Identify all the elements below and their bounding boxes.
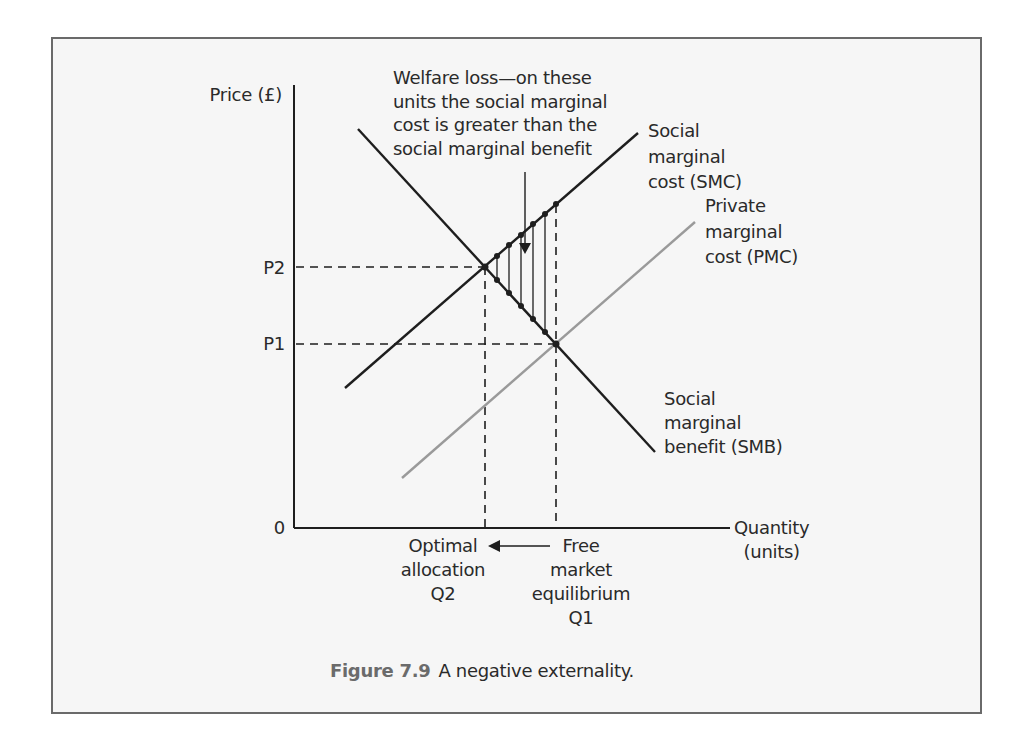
pmc-label-line: cost (PMC) [705, 244, 798, 270]
optimal-label-line: Optimal [398, 534, 488, 558]
pmc-line [402, 222, 695, 478]
welfare-loss-line: units the social marginal [393, 90, 607, 114]
pmc-label: Private marginal cost (PMC) [705, 193, 798, 270]
smb-label-line: Social [664, 387, 783, 411]
origin-label: 0 [240, 516, 285, 540]
welfare-loss-hatch [497, 214, 545, 332]
smc-label-line: Social [648, 118, 742, 144]
welfare-loss-line: Welfare loss—on these [393, 66, 607, 90]
y-axis-label-text: Price (£) [190, 83, 282, 107]
smc-line [345, 133, 638, 388]
free-market-label-line: Q1 [526, 606, 636, 630]
smc-label: Social marginal cost (SMC) [648, 118, 742, 195]
x-axis-label: Quantity (units) [734, 516, 809, 564]
free-market-label-line: Free [526, 534, 636, 558]
welfare-loss-line: cost is greater than the [393, 113, 607, 137]
welfare-loss-line: social marginal benefit [393, 137, 607, 161]
origin-label-text: 0 [240, 516, 285, 540]
pmc-label-line: Private [705, 193, 798, 219]
dashed-guides [296, 205, 556, 528]
welfare-loss-label: Welfare loss—on these units the social m… [393, 66, 607, 160]
figure-number: Figure 7.9 [330, 660, 430, 681]
smb-label-line: benefit (SMB) [664, 435, 783, 459]
tick-p1-text: P1 [240, 332, 285, 356]
tick-p2-text: P2 [240, 256, 285, 280]
smc-label-line: marginal [648, 144, 742, 170]
figure-caption-text: A negative externality. [438, 660, 634, 681]
smc-label-line: cost (SMC) [648, 169, 742, 195]
smb-label: Social marginal benefit (SMB) [664, 387, 783, 459]
smb-label-line: marginal [664, 411, 783, 435]
figure-caption: Figure 7.9A negative externality. [330, 660, 634, 681]
tick-p1: P1 [240, 332, 285, 356]
free-market-label-line: equilibrium [526, 582, 636, 606]
smb-line [358, 129, 655, 452]
free-market-label-line: market [526, 558, 636, 582]
y-axis-label: Price (£) [190, 83, 282, 107]
pmc-label-line: marginal [705, 219, 798, 245]
x-axis-label-line: Quantity [734, 516, 809, 540]
optimal-label-line: allocation [398, 558, 488, 582]
optimal-allocation-label: Optimal allocation Q2 [398, 534, 488, 606]
x-axis-label-line: (units) [734, 540, 809, 564]
free-market-label: Free market equilibrium Q1 [526, 534, 636, 630]
tick-p2: P2 [240, 256, 285, 280]
optimal-label-line: Q2 [398, 582, 488, 606]
